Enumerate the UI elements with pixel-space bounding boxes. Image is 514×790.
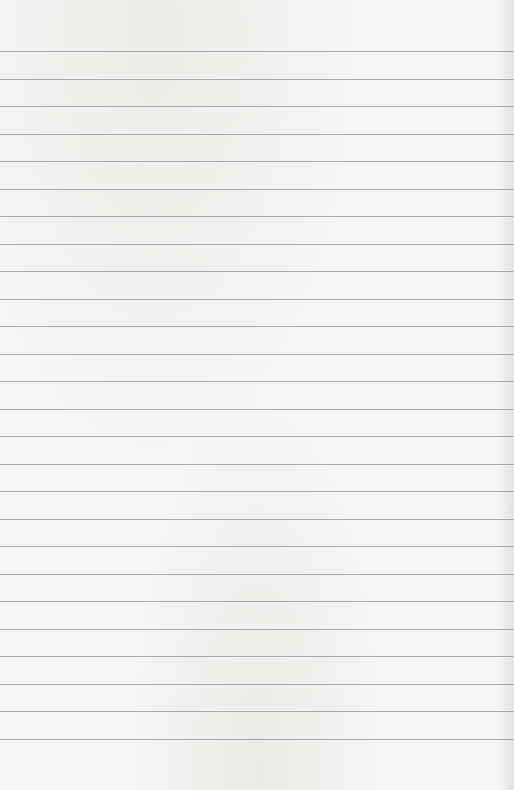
ruled-line	[0, 711, 514, 712]
ruled-line	[0, 299, 514, 300]
ruled-line	[0, 354, 514, 355]
lined-paper-sheet	[0, 0, 514, 790]
ruled-line	[0, 519, 514, 520]
ruled-line	[0, 244, 514, 245]
ruled-line	[0, 436, 514, 437]
ruled-line	[0, 216, 514, 217]
ruled-line	[0, 189, 514, 190]
ruled-line	[0, 739, 514, 740]
ruled-line	[0, 684, 514, 685]
ruled-line	[0, 491, 514, 492]
ruled-line	[0, 409, 514, 410]
ruled-line	[0, 656, 514, 657]
ruled-line	[0, 271, 514, 272]
ruled-line	[0, 79, 514, 80]
ruled-line	[0, 464, 514, 465]
ruled-line	[0, 134, 514, 135]
ruled-line	[0, 574, 514, 575]
ruled-line	[0, 629, 514, 630]
ruled-line	[0, 381, 514, 382]
ruled-line	[0, 51, 514, 52]
ruled-line	[0, 546, 514, 547]
ruled-line	[0, 106, 514, 107]
ruled-line	[0, 161, 514, 162]
ruled-line	[0, 601, 514, 602]
ruled-line	[0, 326, 514, 327]
